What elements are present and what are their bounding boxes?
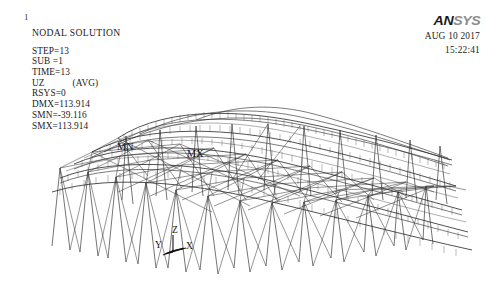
param-dmx: DMX=113.914 bbox=[32, 99, 120, 110]
ansys-plot-window: 1 NODAL SOLUTION STEP=13 SUB =1 TIME=13 … bbox=[0, 0, 486, 306]
brand-block: ANSYS AUG 10 2017 15:22:41 bbox=[425, 14, 480, 57]
page-title: NODAL SOLUTION bbox=[32, 28, 120, 39]
coordinate-triad: Z Y X bbox=[150, 226, 200, 264]
averaging-flag: (AVG) bbox=[45, 78, 99, 89]
plot-index: 1 bbox=[24, 12, 29, 22]
param-rsys: RSYS=0 bbox=[32, 88, 120, 99]
param-smx: SMX=113.914 bbox=[32, 121, 120, 132]
param-result-item: UZ(AVG) bbox=[32, 78, 120, 89]
max-marker-label: MX bbox=[187, 148, 204, 159]
param-sub: SUB =1 bbox=[32, 56, 120, 67]
plot-date: AUG 10 2017 bbox=[425, 31, 480, 42]
min-marker-label: MN bbox=[117, 141, 134, 152]
param-step: STEP=13 bbox=[32, 46, 120, 57]
param-time: TIME=13 bbox=[32, 67, 120, 78]
plot-time: 15:22:41 bbox=[425, 45, 480, 56]
axis-label-z: Z bbox=[172, 225, 178, 235]
axis-label-x: X bbox=[186, 241, 193, 251]
param-smn: SMN=-39.116 bbox=[32, 110, 120, 121]
logo-tail: SYS bbox=[453, 13, 480, 28]
title-block: NODAL SOLUTION STEP=13 SUB =1 TIME=13 UZ… bbox=[32, 28, 120, 131]
logo-lead: AN bbox=[433, 13, 453, 28]
axis-label-y: Y bbox=[155, 240, 162, 250]
interior-diagonals bbox=[92, 124, 434, 218]
result-item-label: UZ bbox=[32, 78, 45, 88]
solution-parameter-list: STEP=13 SUB =1 TIME=13 UZ(AVG) RSYS=0 DM… bbox=[32, 46, 120, 132]
upper-roof-chords bbox=[104, 107, 450, 166]
ansys-logo: ANSYS bbox=[422, 14, 480, 28]
